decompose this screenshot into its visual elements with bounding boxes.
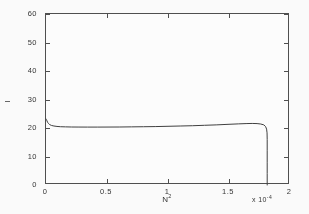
y-axis-title: I bbox=[3, 100, 12, 103]
x-tick-label-1p5: 1.5 bbox=[222, 187, 234, 196]
x-tick-label-0p5: 0.5 bbox=[100, 187, 112, 196]
y-axis-tick-labels: 60 50 40 30 20 10 0 bbox=[0, 0, 45, 214]
data-curve-svg bbox=[46, 14, 290, 185]
figure-canvas: 60 50 40 30 20 10 0 I bbox=[0, 0, 309, 214]
y-tick-label-20: 20 bbox=[28, 123, 37, 132]
x-axis-exponent-multiplier: x 10-4 bbox=[252, 194, 272, 203]
x-axis-exponent-base: x 10 bbox=[252, 196, 267, 203]
y-tick-label-40: 40 bbox=[28, 66, 37, 75]
x-tick-label-0: 0 bbox=[43, 187, 48, 196]
series-line-i-vs-n2 bbox=[46, 119, 267, 185]
x-tick-label-2: 2 bbox=[287, 187, 292, 196]
x-axis-title-superscript: 2 bbox=[168, 193, 171, 199]
plot-area bbox=[45, 13, 289, 184]
y-tick-label-10: 10 bbox=[28, 151, 37, 160]
y-tick-label-50: 50 bbox=[28, 37, 37, 46]
x-axis-title: N2 bbox=[162, 193, 172, 204]
x-axis-exponent-power: -4 bbox=[267, 194, 272, 200]
y-tick-label-60: 60 bbox=[28, 9, 37, 18]
y-tick-label-30: 30 bbox=[28, 94, 37, 103]
